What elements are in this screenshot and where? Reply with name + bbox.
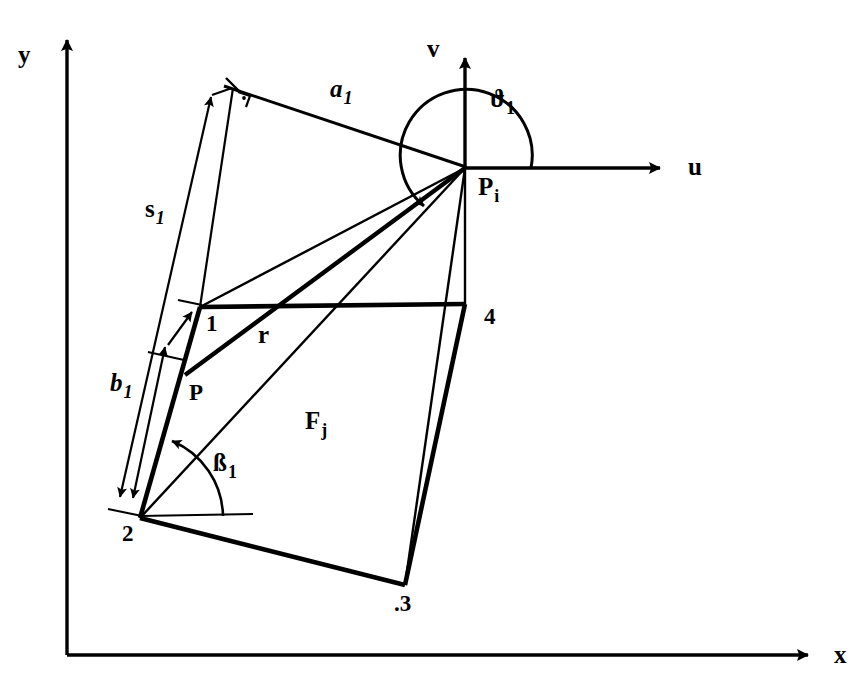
r-vector-label: r [258, 322, 269, 347]
local-axes-group [465, 58, 660, 168]
y-axis-label: y [18, 42, 31, 67]
b1-label: b1 [110, 370, 132, 395]
ray-Pi-to-vertex-3 [405, 168, 465, 585]
panel-edge-1-4 [200, 304, 465, 307]
diagram-svg [0, 0, 867, 683]
figure-canvas: y x v u Pi ϑ1 ß1 a1 s1 b1 r P Fj 1 2 .3 … [0, 0, 867, 683]
u-axis-label: u [688, 154, 702, 179]
vertex-label-4: 4 [484, 305, 496, 328]
local-origin-letter: P [478, 173, 493, 200]
a1-label: a1 [330, 76, 352, 101]
ray-r-Pi-to-P [185, 168, 465, 375]
s1-label: s1 [145, 196, 164, 221]
b1-tick-upper [148, 352, 184, 360]
s1-dimension-line [120, 97, 211, 497]
x-axis-label: x [834, 642, 847, 667]
vertex-label-1: 1 [206, 312, 218, 335]
panel-name-label: Fj [305, 408, 326, 433]
local-origin-label: Pi [478, 174, 498, 199]
local-origin-subscript: i [494, 186, 499, 206]
panel-outline [140, 304, 465, 585]
global-axes-group [67, 40, 808, 655]
panel-edge-4-3 [405, 304, 465, 585]
s1-glyph: s [145, 195, 155, 222]
a1-subscript: 1 [344, 88, 353, 108]
beta-1-label: ß1 [213, 450, 236, 475]
v-axis-label: v [427, 36, 440, 61]
a1-glyph: a [330, 75, 343, 102]
s1-extension-top [212, 88, 232, 95]
panel-edge-3-2 [140, 518, 405, 585]
vertex-label-2: 2 [122, 522, 134, 545]
vertex-label-3: .3 [394, 592, 411, 615]
b1-subscript: 1 [124, 382, 133, 402]
s1-tick-vertex1 [178, 300, 202, 305]
theta-1-label: ϑ1 [490, 86, 514, 111]
s1-subscript: 1 [156, 208, 165, 228]
beta-1-subscript: 1 [228, 462, 237, 482]
beta-1-reference-line [140, 514, 253, 516]
b1-glyph: b [110, 369, 123, 396]
theta-1-subscript: 1 [506, 98, 515, 118]
ray-Pi-to-vertex-1 [200, 168, 465, 307]
a1-right-angle-dot [242, 96, 246, 100]
beta-1-glyph: ß [213, 449, 227, 476]
panel-name-letter: F [305, 407, 320, 434]
field-point-label: P [189, 381, 203, 404]
s1-tick-vertex2 [108, 509, 142, 516]
panel-name-subscript: j [321, 420, 327, 440]
theta-1-glyph: ϑ [490, 85, 505, 112]
